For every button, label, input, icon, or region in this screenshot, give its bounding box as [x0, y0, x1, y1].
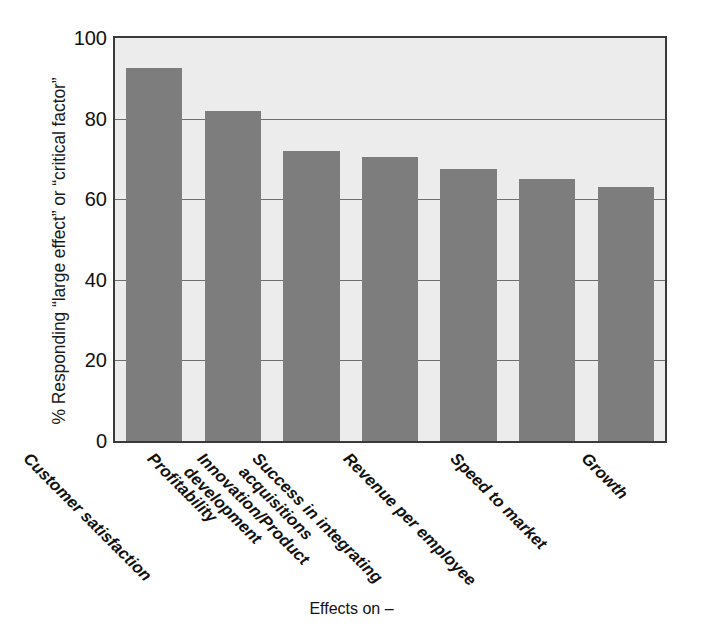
bars-layer	[115, 38, 665, 441]
y-tick-label-80: 80	[49, 109, 107, 129]
bar[interactable]	[519, 179, 575, 441]
bar[interactable]	[205, 111, 261, 441]
y-tick-label-40: 40	[49, 270, 107, 290]
y-tick-label-20: 20	[49, 350, 107, 370]
x-tick-label: Speed to market	[447, 449, 551, 553]
plot-area	[113, 36, 667, 443]
bar[interactable]	[283, 151, 339, 441]
y-tick-label-0: 0	[49, 431, 107, 451]
y-axis-tick-labels: 020406080100	[43, 0, 107, 642]
x-axis-tick-labels: Customer satisfactionProfitabilityInnova…	[113, 443, 667, 593]
bar[interactable]	[126, 68, 182, 441]
bar[interactable]	[598, 187, 654, 441]
bar[interactable]	[440, 169, 496, 441]
bar[interactable]	[362, 157, 418, 441]
x-axis-title: Effects on –	[0, 600, 703, 618]
bar-chart-figure: % Responding “large effect” or “critical…	[0, 0, 703, 642]
x-tick-label: Growth	[578, 449, 632, 503]
plot-inner	[115, 38, 665, 441]
y-tick-label-100: 100	[49, 28, 107, 48]
y-tick-label-60: 60	[49, 189, 107, 209]
